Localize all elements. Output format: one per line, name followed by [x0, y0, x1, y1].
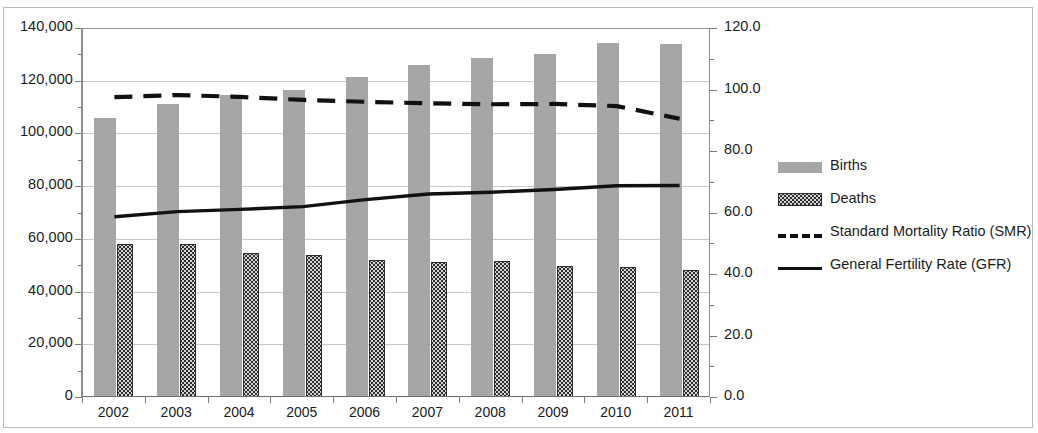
bar-deaths: [369, 260, 385, 397]
bar-deaths: [117, 244, 133, 397]
x-axis-tick: [333, 397, 334, 403]
x-axis-tick: [584, 397, 585, 403]
chart-legend: Births Deaths Standard Mortality Ratio (…: [778, 148, 1028, 280]
left-axis-minor-tick: [78, 54, 82, 55]
plot-top-border: [83, 28, 709, 29]
bar-births: [220, 95, 242, 397]
bar-deaths: [431, 262, 447, 397]
bar-births: [346, 77, 368, 397]
right-axis-tick: [710, 274, 717, 275]
left-axis-tick-label: 100,000: [3, 123, 73, 139]
x-axis-tick-label: 2009: [522, 404, 584, 420]
bar-births: [597, 43, 619, 398]
legend-label-births: Births: [830, 157, 867, 173]
right-axis-tick: [710, 213, 717, 214]
bar-deaths: [620, 267, 636, 397]
left-axis-tick-label: 80,000: [3, 176, 73, 192]
right-axis-minor-tick: [710, 366, 714, 367]
right-axis-minor-tick: [710, 243, 714, 244]
left-axis-tick: [75, 397, 82, 398]
left-axis-tick-label: 40,000: [3, 282, 73, 298]
bar-births: [157, 104, 179, 397]
left-axis-minor-tick: [78, 160, 82, 161]
x-axis-tick: [522, 397, 523, 403]
left-axis-minor-tick: [78, 265, 82, 266]
right-axis-tick: [710, 28, 717, 29]
right-axis-tick-label: 20.0: [724, 326, 794, 342]
bar-births: [471, 58, 493, 397]
left-axis-tick-label: 140,000: [3, 18, 73, 34]
bar-births: [660, 44, 682, 397]
bar-births: [408, 65, 430, 397]
x-axis-tick-label: 2003: [145, 404, 207, 420]
right-axis-tick: [710, 336, 717, 337]
left-axis-minor-tick: [78, 213, 82, 214]
right-axis-tick: [710, 151, 717, 152]
x-axis-tick-label: 2008: [459, 404, 521, 420]
smr-line: [114, 95, 679, 119]
gfr-solid-line-icon: [778, 267, 822, 270]
births-swatch-icon: [778, 162, 822, 173]
left-axis-tick-label: 0: [3, 387, 73, 403]
bar-deaths: [306, 255, 322, 397]
x-axis-tick-label: 2004: [208, 404, 270, 420]
x-axis-tick-label: 2006: [334, 404, 396, 420]
deaths-swatch-icon: [778, 193, 822, 206]
right-axis-tick-label: 0.0: [724, 387, 794, 403]
x-axis-tick: [270, 397, 271, 403]
bar-deaths: [683, 270, 699, 397]
x-axis-tick-label: 2005: [271, 404, 333, 420]
bar-deaths: [557, 266, 573, 397]
x-axis-tick-label: 2007: [396, 404, 458, 420]
left-axis-tick-label: 20,000: [3, 334, 73, 350]
bar-births: [283, 90, 305, 397]
legend-item-deaths: Deaths: [778, 181, 1028, 214]
x-axis-tick: [396, 397, 397, 403]
legend-item-births: Births: [778, 148, 1028, 181]
right-axis-minor-tick: [710, 182, 714, 183]
right-axis-tick: [710, 397, 717, 398]
bar-deaths: [243, 253, 259, 397]
left-axis-minor-tick: [78, 107, 82, 108]
gfr-line: [114, 185, 679, 216]
legend-label-deaths: Deaths: [830, 190, 876, 206]
right-axis-minor-tick: [710, 305, 714, 306]
right-axis-tick-label: 100.0: [724, 80, 794, 96]
x-axis-tick: [710, 397, 711, 403]
bar-births: [534, 54, 556, 397]
legend-label-smr: Standard Mortality Ratio (SMR): [830, 223, 1031, 239]
x-axis-tick: [208, 397, 209, 403]
legend-label-gfr: General Fertility Rate (GFR): [830, 256, 1011, 272]
bar-deaths: [494, 261, 510, 397]
left-axis-minor-tick: [78, 318, 82, 319]
left-axis-minor-tick: [78, 371, 82, 372]
smr-dashed-line-icon: [778, 234, 822, 238]
x-axis-tick: [459, 397, 460, 403]
left-axis-tick-label: 120,000: [3, 71, 73, 87]
bar-births: [94, 118, 116, 397]
x-axis-tick: [82, 397, 83, 403]
x-axis-tick-label: 2002: [82, 404, 144, 420]
x-axis-tick-label: 2011: [648, 404, 710, 420]
x-axis-tick: [647, 397, 648, 403]
plot-area: [82, 28, 710, 397]
right-axis-minor-tick: [710, 59, 714, 60]
right-axis-tick: [710, 90, 717, 91]
right-axis-minor-tick: [710, 120, 714, 121]
left-axis-tick-label: 60,000: [3, 229, 73, 245]
right-axis-tick-label: 120.0: [724, 18, 794, 34]
chart-screenshot: 020,00040,00060,00080,000100,000120,0001…: [0, 0, 1038, 433]
bar-deaths: [180, 244, 196, 397]
x-axis-tick-label: 2010: [585, 404, 647, 420]
x-axis-tick: [145, 397, 146, 403]
legend-item-gfr: General Fertility Rate (GFR): [778, 247, 1028, 280]
legend-item-smr: Standard Mortality Ratio (SMR): [778, 214, 1028, 247]
